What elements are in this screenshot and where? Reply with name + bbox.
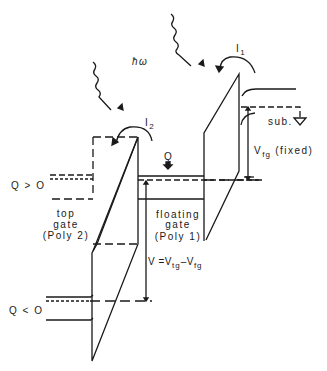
photon-arrow-upper xyxy=(171,14,191,66)
current-arrow-i1 xyxy=(220,57,255,73)
substrate-label: sub. xyxy=(268,116,293,127)
ground-icon xyxy=(294,118,306,125)
vfg-label: Vfg (fixed) xyxy=(254,145,313,160)
charge-arrow-icon xyxy=(164,162,172,169)
photon-arrow-left xyxy=(93,62,111,110)
arrowhead-icon xyxy=(199,60,204,66)
q-positive-label: Q > O xyxy=(11,180,45,191)
q-negative-label: Q < O xyxy=(9,305,43,316)
photon-label: ħω xyxy=(132,56,148,67)
current-i2-label: I2 xyxy=(145,117,155,132)
band-diagram xyxy=(0,0,327,371)
floating-gate-label: floating gate (Poly 1) xyxy=(150,209,206,242)
arrowhead-icon xyxy=(216,66,223,72)
voltage-equation: V =Vtg–Vfg xyxy=(148,256,203,271)
substrate-conduction xyxy=(242,89,296,96)
arrowhead-icon xyxy=(118,104,123,110)
top-oxide-barrier xyxy=(92,137,138,361)
current-i1-label: I1 xyxy=(236,43,246,58)
charge-label: Q xyxy=(164,151,173,162)
top-gate-label: top gate (Poly 2) xyxy=(38,208,94,241)
tunnel-oxide-barrier xyxy=(204,74,239,241)
